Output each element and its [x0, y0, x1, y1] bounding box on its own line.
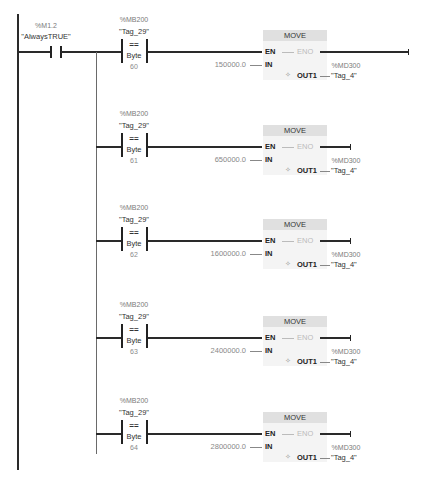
- out-address: %MD300: [328, 157, 364, 164]
- compare-operator: ==: [124, 421, 144, 430]
- rung-end: [350, 431, 351, 437]
- out-address: %MD300: [328, 348, 364, 355]
- rung-end: [350, 144, 351, 150]
- compare-operator: ==: [124, 40, 144, 49]
- wire: [282, 241, 294, 242]
- wire: [148, 337, 262, 339]
- pin-en: EN: [265, 333, 275, 342]
- in-value[interactable]: 150000.0: [196, 60, 246, 69]
- out-address: %MD300: [328, 251, 364, 258]
- compare-operator: ==: [124, 325, 144, 334]
- pin-out1: OUT1: [297, 453, 317, 462]
- in-value[interactable]: 1600000.0: [192, 249, 246, 258]
- rung-end: [408, 49, 409, 55]
- output-icon: ✧: [285, 453, 291, 461]
- pin-eno: ENO: [297, 333, 313, 342]
- wire: [282, 147, 294, 148]
- pin-en: EN: [265, 142, 275, 151]
- compare-type: Byte: [122, 51, 146, 60]
- pin-out1: OUT1: [297, 357, 317, 366]
- contact-address: %M1.2: [22, 22, 70, 29]
- out-name[interactable]: "Tag_4": [331, 260, 357, 269]
- output-icon: ✧: [285, 166, 291, 174]
- wire: [320, 265, 330, 266]
- rung-end: [350, 238, 351, 244]
- wire: [320, 337, 350, 339]
- wire: [320, 458, 330, 459]
- wire: [96, 240, 122, 242]
- pin-in: IN: [265, 155, 273, 164]
- pin-in: IN: [265, 60, 273, 69]
- pin-eno: ENO: [297, 47, 313, 56]
- compare-type: Byte: [122, 336, 146, 345]
- compare-value: 62: [122, 251, 146, 258]
- wire: [96, 337, 122, 339]
- pin-eno: ENO: [297, 429, 313, 438]
- wire: [148, 146, 262, 148]
- pin-en: EN: [265, 429, 275, 438]
- out-name[interactable]: "Tag_4": [331, 71, 357, 80]
- compare-contact: [146, 227, 148, 251]
- move-title: MOVE: [263, 412, 327, 423]
- pin-in: IN: [265, 442, 273, 451]
- out-address: %MD300: [328, 62, 364, 69]
- compare-address: %MB200: [114, 301, 154, 308]
- pin-in: IN: [265, 249, 273, 258]
- pin-out1: OUT1: [297, 166, 317, 175]
- wire: [148, 240, 262, 242]
- compare-value: 61: [122, 157, 146, 164]
- out-name[interactable]: "Tag_4": [331, 166, 357, 175]
- wire: [148, 433, 262, 435]
- compare-name: "Tag_29": [114, 121, 154, 130]
- in-value[interactable]: 650000.0: [196, 155, 246, 164]
- compare-contact: [146, 324, 148, 348]
- power-rail: [17, 14, 19, 470]
- compare-type: Byte: [122, 432, 146, 441]
- wire: [320, 433, 350, 435]
- in-value[interactable]: 2400000.0: [192, 346, 246, 355]
- wire: [18, 51, 51, 53]
- contact-name: "AlwaysTRUE": [18, 32, 74, 41]
- output-icon: ✧: [285, 71, 291, 79]
- wire: [320, 76, 330, 77]
- move-title: MOVE: [263, 125, 327, 136]
- contact-no[interactable]: [50, 46, 52, 58]
- wire: [282, 338, 294, 339]
- pin-in: IN: [265, 346, 273, 355]
- wire: [320, 171, 330, 172]
- compare-contact: [146, 133, 148, 157]
- compare-name: "Tag_29": [114, 27, 154, 36]
- compare-operator: ==: [124, 228, 144, 237]
- pin-en: EN: [265, 236, 275, 245]
- rung-end: [350, 335, 351, 341]
- compare-contact: [146, 420, 148, 444]
- move-title: MOVE: [263, 316, 327, 327]
- wire: [320, 362, 330, 363]
- compare-address: %MB200: [114, 397, 154, 404]
- out-name[interactable]: "Tag_4": [331, 453, 357, 462]
- in-value[interactable]: 2800000.0: [192, 442, 246, 451]
- compare-type: Byte: [122, 239, 146, 248]
- output-icon: ✧: [285, 357, 291, 365]
- wire: [148, 51, 262, 53]
- compare-value: 60: [122, 63, 146, 70]
- compare-value: 64: [122, 444, 146, 451]
- wire: [250, 447, 262, 448]
- wire: [282, 52, 294, 53]
- output-icon: ✧: [285, 260, 291, 268]
- pin-en: EN: [265, 47, 275, 56]
- out-name[interactable]: "Tag_4": [331, 357, 357, 366]
- branch-rail: [96, 52, 97, 454]
- move-title: MOVE: [263, 219, 327, 230]
- compare-address: %MB200: [114, 16, 154, 23]
- wire: [96, 433, 122, 435]
- compare-operator: ==: [124, 134, 144, 143]
- move-title: MOVE: [263, 30, 327, 41]
- wire: [320, 146, 350, 148]
- compare-address: %MB200: [114, 110, 154, 117]
- compare-address: %MB200: [114, 204, 154, 211]
- wire: [61, 51, 121, 53]
- wire: [320, 51, 408, 53]
- wire: [250, 254, 262, 255]
- wire: [320, 240, 350, 242]
